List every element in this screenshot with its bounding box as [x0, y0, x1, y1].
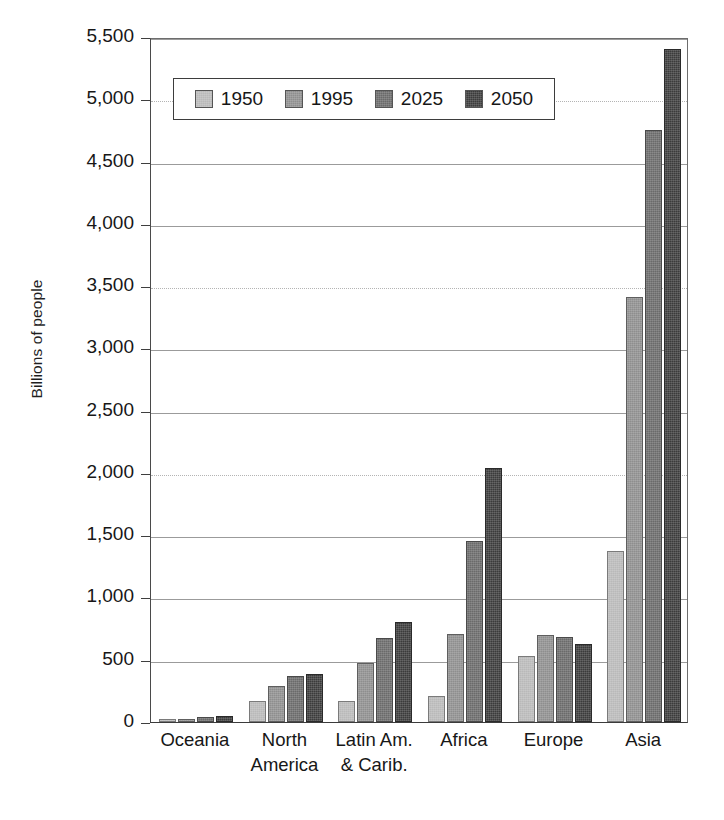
y-tick-mark: [141, 661, 150, 662]
bar: [537, 635, 554, 722]
y-tick-label: 5,000: [28, 87, 134, 109]
legend-item-1995[interactable]: 1995: [285, 88, 353, 110]
y-tick-label: 4,000: [28, 212, 134, 234]
bar: [159, 719, 176, 722]
legend-item-1950[interactable]: 1950: [195, 88, 263, 110]
bar: [518, 656, 535, 722]
bar: [376, 638, 393, 722]
y-tick-label: 500: [28, 648, 134, 670]
legend-swatch-icon: [465, 90, 483, 108]
bar: [428, 696, 445, 722]
bar: [575, 644, 592, 722]
y-tick-mark: [141, 163, 150, 164]
bar: [306, 674, 323, 722]
y-tick-label: 3,000: [28, 336, 134, 358]
bar: [338, 701, 355, 722]
y-tick-mark: [141, 349, 150, 350]
y-tick-mark: [141, 225, 150, 226]
bar-chart-figure: Billions of people 1950199520252050 Ocea…: [0, 0, 724, 820]
y-tick-mark: [141, 474, 150, 475]
y-tick-mark: [141, 38, 150, 39]
bar: [664, 49, 681, 722]
bar: [626, 297, 643, 722]
y-tick-label: 5,500: [28, 25, 134, 47]
legend-swatch-icon: [375, 90, 393, 108]
y-tick-label: 3,500: [28, 274, 134, 296]
y-tick-label: 2,500: [28, 399, 134, 421]
y-tick-mark: [141, 723, 150, 724]
y-tick-mark: [141, 100, 150, 101]
bar: [216, 716, 233, 722]
bar: [197, 717, 214, 722]
bar-series-container: [151, 39, 687, 722]
bar: [645, 130, 662, 722]
bar-group: [338, 39, 412, 722]
bar: [178, 719, 195, 722]
bar-group: [428, 39, 502, 722]
bar-group: [249, 39, 323, 722]
y-tick-label: 0: [28, 710, 134, 732]
x-axis-label: Asia: [584, 727, 702, 752]
legend-label: 1995: [311, 88, 353, 110]
y-tick-label: 4,500: [28, 150, 134, 172]
legend-item-2025[interactable]: 2025: [375, 88, 443, 110]
y-tick-label: 1,000: [28, 585, 134, 607]
bar: [466, 541, 483, 722]
y-tick-label: 1,500: [28, 523, 134, 545]
bar: [395, 622, 412, 722]
legend-swatch-icon: [195, 90, 213, 108]
bar: [607, 551, 624, 722]
legend-item-2050[interactable]: 2050: [465, 88, 533, 110]
legend-label: 2025: [401, 88, 443, 110]
bar: [287, 676, 304, 722]
bar: [249, 701, 266, 722]
y-tick-mark: [141, 536, 150, 537]
y-tick-mark: [141, 412, 150, 413]
legend-label: 2050: [491, 88, 533, 110]
y-tick-label: 2,000: [28, 461, 134, 483]
legend-label: 1950: [221, 88, 263, 110]
bar: [447, 634, 464, 722]
chart-legend: 1950199520252050: [173, 78, 555, 120]
bar: [556, 637, 573, 722]
x-axis-labels: OceaniaNorth AmericaLatin Am. & Carib.Af…: [150, 727, 688, 797]
plot-area: [150, 38, 688, 723]
legend-swatch-icon: [285, 90, 303, 108]
bar: [485, 468, 502, 722]
y-tick-mark: [141, 598, 150, 599]
bar-group: [159, 39, 233, 722]
y-tick-mark: [141, 287, 150, 288]
bar: [357, 663, 374, 722]
bar-group: [607, 39, 681, 722]
bar: [268, 686, 285, 722]
bar-group: [518, 39, 592, 722]
